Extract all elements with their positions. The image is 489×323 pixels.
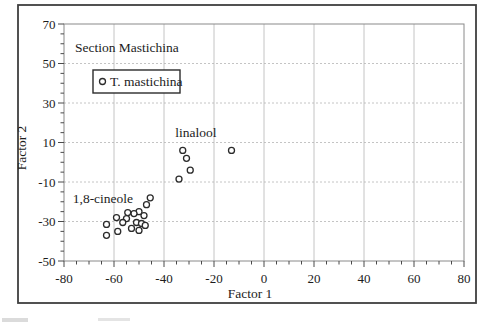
x-tick-label: -60 — [105, 271, 122, 286]
data-point — [125, 210, 131, 216]
y-tick-label: 50 — [43, 56, 56, 71]
data-point — [142, 222, 148, 228]
data-point — [147, 195, 153, 201]
x-tick-label: 60 — [408, 271, 421, 286]
x-tick-label: -40 — [155, 271, 172, 286]
data-point — [141, 213, 147, 219]
y-tick-label: -10 — [38, 175, 55, 190]
data-point — [114, 215, 120, 221]
data-point — [104, 232, 110, 238]
data-point — [104, 221, 110, 227]
y-tick-label: 10 — [43, 135, 56, 150]
data-point — [115, 228, 121, 234]
legend: T. mastichina — [93, 70, 182, 93]
data-point — [184, 155, 190, 161]
x-tick-label: 0 — [261, 271, 268, 286]
y-axis-title: Factor 2 — [14, 126, 29, 171]
data-point — [176, 176, 182, 182]
y-tick-label: 70 — [43, 17, 56, 32]
legend-label: T. mastichina — [110, 74, 182, 89]
data-point — [187, 167, 193, 173]
x-axis-title: Factor 1 — [228, 286, 273, 301]
annotation-linalool: linalool — [175, 125, 216, 140]
data-point — [129, 225, 135, 231]
data-point — [229, 147, 235, 153]
legend-marker-icon — [100, 79, 106, 85]
x-tick-label: -20 — [205, 271, 222, 286]
y-tick-label: -30 — [38, 214, 55, 229]
data-point — [120, 219, 126, 225]
x-tick-label: 20 — [308, 271, 321, 286]
data-point — [136, 227, 142, 233]
x-tick-label: 40 — [358, 271, 371, 286]
x-tick-label: -80 — [55, 271, 72, 286]
x-tick-label: 80 — [458, 271, 471, 286]
figure-canvas: -80-60-40-2002040608070503010-10-30-50 l… — [0, 0, 489, 323]
y-tick-label: 30 — [43, 96, 56, 111]
cropped-caption-fragment — [2, 318, 130, 322]
data-point — [180, 147, 186, 153]
data-point — [131, 211, 137, 217]
plot-title: Section Mastichina — [75, 40, 179, 55]
annotation-1-8-cineole: 1,8-cineole — [73, 191, 133, 206]
scatter-chart: -80-60-40-2002040608070503010-10-30-50 l… — [0, 0, 489, 323]
y-tick-label: -50 — [38, 254, 55, 269]
data-point — [144, 202, 150, 208]
